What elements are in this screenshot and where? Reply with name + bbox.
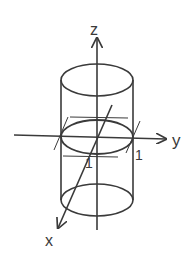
x-axis-label: x — [45, 232, 53, 249]
y-unit-label: 1 — [135, 147, 143, 163]
y-axis — [14, 135, 166, 139]
z-axis-label: z — [90, 21, 98, 38]
cylinder-diagram: z y x 1 1 — [0, 0, 194, 265]
x-unit-label: 1 — [85, 155, 93, 171]
y-axis-label: y — [172, 131, 181, 150]
tangent-line-top — [70, 117, 128, 118]
